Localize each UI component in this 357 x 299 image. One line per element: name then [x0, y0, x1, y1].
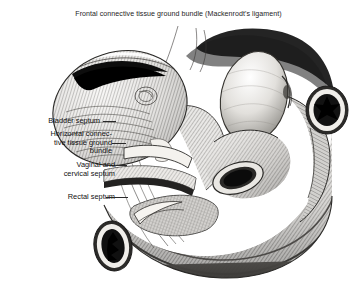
figure-title: Frontal connective tissue ground bundle … — [0, 10, 357, 18]
leader-bladder-septum — [103, 121, 116, 122]
leader-horizontal-bundle — [112, 143, 126, 144]
cut-tube-center — [206, 130, 290, 200]
label-vaginal-cervical-septum: Vaginal and cervical septum — [64, 161, 115, 178]
leader-vaginal-cervical-septum — [116, 165, 127, 166]
label-bladder-septum: Bladder septum — [48, 117, 100, 126]
label-vaginal-line2: cervical septum — [64, 170, 115, 179]
label-horizontal-bundle-line3: bundle — [50, 147, 112, 156]
anatomical-plate: Frontal connective tissue ground bundle … — [0, 0, 357, 299]
vessel-cross-section — [91, 219, 136, 274]
label-horizontal-bundle: Horizontal connec- tive tissue ground bu… — [50, 130, 112, 156]
leader-rectal-septum — [106, 197, 128, 198]
label-bladder-septum-text: Bladder septum — [48, 117, 100, 126]
